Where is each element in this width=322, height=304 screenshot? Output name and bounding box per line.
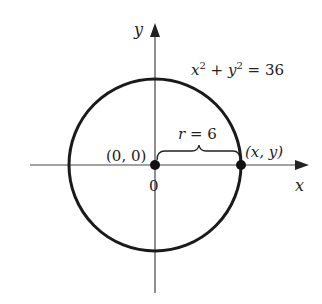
y-axis-arrow-icon: [150, 23, 160, 37]
equation-plus: +: [206, 61, 228, 79]
x-axis-arrow-icon: [295, 160, 309, 170]
origin-tick-label: 0: [149, 177, 159, 195]
radius-label: r = 6: [178, 125, 217, 143]
y-axis-label: y: [133, 20, 144, 39]
x-axis: [30, 160, 309, 170]
circle-diagram: y x 0 (0, 0) (x, y) r = 6 x2 + y2 = 36: [0, 0, 322, 304]
x-axis-label: x: [295, 176, 304, 195]
equation-rhs: = 36: [243, 61, 284, 79]
circle-point: [236, 160, 246, 170]
radius-brace: [157, 145, 240, 160]
point-label: (x, y): [245, 143, 283, 161]
origin-point: [150, 160, 160, 170]
radius-value: = 6: [185, 125, 217, 143]
circle-equation: x2 + y2 = 36: [191, 60, 284, 79]
origin-label: (0, 0): [106, 147, 146, 165]
